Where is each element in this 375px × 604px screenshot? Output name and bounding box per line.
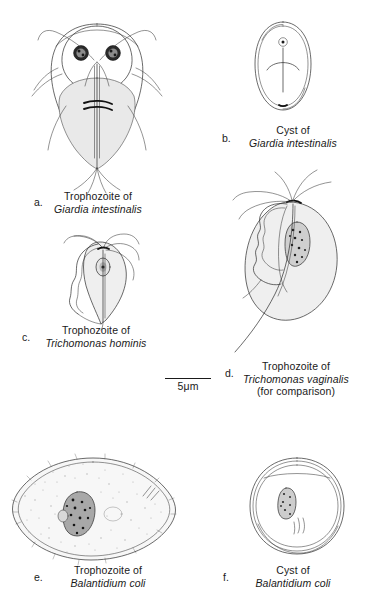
figure-c-trichomonas-hominis: c. Trophozoite of Trichomonas hominis [0,225,190,365]
figure-a-caption-line2: Giardia intestinalis [18,203,178,216]
trichomonas-vaginalis-drawing [203,170,368,365]
giardia-cyst-drawing [245,18,321,118]
figure-f-balantidium-cyst: f. Cyst of Balantidium coli [200,440,375,604]
figure-f-caption: Cyst of Balantidium coli [218,564,368,589]
trichomonas-hominis-drawing [48,230,158,330]
figure-d-trichomonas-vaginalis: d. Trophozoite of Trichomonas vaginalis … [185,170,375,400]
figure-c-caption-line1: Trophozoite of [16,324,176,337]
balantidium-cyst-macronucleus [278,488,296,519]
giardia-trophozoite-drawing [22,8,172,193]
balantidium-trophozoite-drawing [5,448,185,566]
scale-bar-line [165,378,211,379]
figure-f-caption-line1: Cyst of [218,564,368,577]
figure-d-caption-line1: Trophozoite of [221,360,371,373]
figure-a-caption-line1: Trophozoite of [18,190,178,203]
figure-a-giardia-trophozoite: a. Trophozoite of Giardia intestinalis [0,0,190,230]
figure-b-giardia-cyst: b. Cyst of Giardia intestinalis [190,0,375,165]
figure-d-caption: Trophozoite of Trichomonas vaginalis (fo… [221,360,371,398]
figure-a-caption: Trophozoite of Giardia intestinalis [18,190,178,215]
figure-e-balantidium-trophozoite: e. Trophozoite of Balantidium coli [0,440,200,604]
giardia-nucleus-left [74,46,89,61]
figure-b-caption-line1: Cyst of [218,124,368,137]
figure-c-caption-line2: Trichomonas hominis [16,337,176,350]
scale-bar-label: 5μm [152,380,224,392]
figure-d-caption-line2: Trichomonas vaginalis [221,373,371,386]
figure-d-caption-line3: (for comparison) [221,385,371,398]
figure-e-caption-line2: Balantidium coli [28,577,188,590]
figure-e-caption-line1: Trophozoite of [28,564,188,577]
giardia-nucleus-right [106,46,121,61]
figure-b-caption: Cyst of Giardia intestinalis [218,124,368,149]
giardia-cyst-nucleus [279,38,288,47]
figure-f-caption-line2: Balantidium coli [218,577,368,590]
figure-e-caption: Trophozoite of Balantidium coli [28,564,188,589]
illustration-plate: a. Trophozoite of Giardia intestinalis [0,0,375,604]
figure-b-caption-line2: Giardia intestinalis [218,137,368,150]
balantidium-cyst-drawing [242,454,352,562]
figure-c-caption: Trophozoite of Trichomonas hominis [16,324,176,349]
scale-bar: 5μm [152,378,224,392]
